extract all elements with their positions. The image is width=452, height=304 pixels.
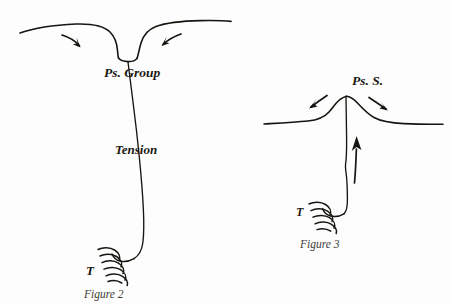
figure-2-group-label: Ps. Group xyxy=(104,65,161,80)
figure-3-weight-label: T xyxy=(296,205,304,219)
figure-2-surface-right xyxy=(137,20,231,58)
figure-plate: T Ps. Group Tension Figure 2 xyxy=(0,0,452,304)
figure-3-weight-coil xyxy=(309,202,344,233)
figure-3-surface-left xyxy=(264,96,346,124)
figure-2-tension-label: Tension xyxy=(115,142,157,157)
figure-3-surface-right xyxy=(346,96,443,124)
figure-3-group-label: Ps. S. xyxy=(352,73,383,88)
figure-2-surface-floor xyxy=(119,58,138,62)
figure-2-tension-line xyxy=(128,62,144,259)
figure-3-up-arrow-shaft xyxy=(355,149,357,183)
figure-drawing-canvas: T Ps. Group Tension Figure 2 xyxy=(0,0,452,304)
figure-2-weight-label: T xyxy=(86,263,95,278)
figure-2-group: T Ps. Group Tension Figure 2 xyxy=(20,20,231,301)
figure-2-caption: Figure 2 xyxy=(83,288,124,301)
figure-3-tension-line xyxy=(344,97,347,214)
figure-3-group: T Ps. S. Figure 3 xyxy=(264,73,443,251)
figure-2-weight-coil xyxy=(98,248,134,286)
figure-2-surface-left xyxy=(20,24,119,58)
figure-3-caption: Figure 3 xyxy=(299,238,340,251)
